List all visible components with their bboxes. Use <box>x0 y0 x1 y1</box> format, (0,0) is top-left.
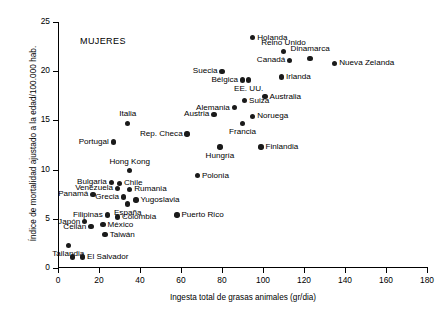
x-tick-label-80: 80 <box>207 275 237 285</box>
data-point <box>219 69 224 74</box>
data-point <box>211 112 216 117</box>
y-axis-label: Índice de mortalidad ajustado a la edad/… <box>29 14 38 274</box>
data-point <box>105 212 110 217</box>
data-point-label: Yugoslavia <box>140 196 179 204</box>
x-tick-160: 160 <box>386 268 387 273</box>
data-point <box>80 254 85 259</box>
data-point-label: Noruega <box>257 112 288 120</box>
x-tick-label-100: 100 <box>248 275 278 285</box>
y-tick-label-15: 15 <box>41 114 50 124</box>
data-point-label: El Salvador <box>87 253 128 261</box>
data-point <box>125 121 130 126</box>
data-point <box>332 61 337 66</box>
x-tick-180: 180 <box>427 268 428 273</box>
x-tick-label-140: 140 <box>330 275 360 285</box>
y-tick-label-10: 10 <box>41 164 50 174</box>
data-point <box>258 144 263 149</box>
data-point-label: Italia <box>119 110 136 118</box>
scatter-plot-figure: Índice de mortalidad ajustado a la edad/… <box>0 0 443 316</box>
data-point <box>111 139 116 144</box>
data-point <box>174 212 179 217</box>
x-tick-label-0: 0 <box>43 275 73 285</box>
x-tick-label-160: 160 <box>371 275 401 285</box>
x-tick-20: 20 <box>99 268 100 273</box>
data-point-label: Rumania <box>134 185 166 193</box>
x-tick-80: 80 <box>222 268 223 273</box>
x-tick-120: 120 <box>304 268 305 273</box>
data-point-label: Hong Kong <box>109 157 150 165</box>
data-point-label: Francia <box>229 128 256 136</box>
data-point <box>66 243 71 248</box>
data-point <box>121 194 126 199</box>
data-point-label: Canadá <box>257 56 285 64</box>
x-tick-40: 40 <box>140 268 141 273</box>
data-point <box>70 254 75 259</box>
data-point-label: Polonia <box>202 171 229 179</box>
x-tick-140: 140 <box>345 268 346 273</box>
data-point <box>115 186 120 191</box>
data-point <box>184 131 189 136</box>
data-point-label: Suiza <box>249 97 269 105</box>
data-point-label: Finlandia <box>265 143 298 151</box>
x-tick-label-20: 20 <box>84 275 114 285</box>
data-point <box>133 197 138 202</box>
data-point <box>250 35 255 40</box>
x-tick-100: 100 <box>263 268 264 273</box>
x-tick-60: 60 <box>181 268 182 273</box>
data-point-label: Australia <box>270 93 302 101</box>
y-tick-10: 10 <box>53 170 58 171</box>
y-tick-label-20: 20 <box>41 65 50 75</box>
x-tick-0: 0 <box>58 268 59 273</box>
data-point-label: Irlanda <box>286 73 311 81</box>
data-point-label: Rep. Checa <box>140 130 183 138</box>
x-tick-label-40: 40 <box>125 275 155 285</box>
y-tick-label-25: 25 <box>41 16 50 26</box>
data-point <box>240 121 245 126</box>
data-point <box>195 173 200 178</box>
y-tick-label-5: 5 <box>45 213 50 223</box>
y-tick-label-0: 0 <box>45 262 50 272</box>
data-point-label: México <box>108 221 134 229</box>
data-point <box>88 224 93 229</box>
data-point-label: Portugal <box>79 138 109 146</box>
x-tick-label-120: 120 <box>289 275 319 285</box>
data-point-label: Ceilán <box>63 223 86 231</box>
data-point-label: Taiwán <box>110 230 135 238</box>
data-point <box>287 58 292 63</box>
data-point <box>217 144 222 149</box>
data-point-label: Grecia <box>95 193 119 201</box>
data-point <box>307 56 312 61</box>
data-point <box>242 98 247 103</box>
x-tick-label-180: 180 <box>412 275 442 285</box>
data-point <box>100 222 105 227</box>
data-point-label: Puerto Rico <box>181 211 223 219</box>
data-point <box>240 77 245 82</box>
data-point-label: EE. UU. <box>234 85 263 93</box>
data-point-label: Dinamarca <box>291 45 330 53</box>
data-point <box>246 77 251 82</box>
plot-area: 0510152025 020406080100120140160180 Hola… <box>58 22 427 268</box>
data-point <box>125 201 130 206</box>
data-point <box>250 114 255 119</box>
y-tick-20: 20 <box>53 71 58 72</box>
data-point-label: Nueva Zelanda <box>339 59 394 67</box>
data-point <box>281 49 286 54</box>
x-axis-label: Ingesta total de grasas animales (gr/dia… <box>58 293 428 302</box>
y-tick-15: 15 <box>53 120 58 121</box>
data-point-label: Bélgica <box>211 76 238 84</box>
y-tick-25: 25 <box>53 22 58 23</box>
x-tick-label-60: 60 <box>166 275 196 285</box>
data-point <box>279 74 284 79</box>
data-point <box>232 105 237 110</box>
data-point-label: Panamá <box>58 190 88 198</box>
data-point <box>102 232 107 237</box>
data-point <box>127 168 132 173</box>
data-point-label: Austria <box>184 110 209 118</box>
data-point <box>127 187 132 192</box>
data-point-label: Hungría <box>206 152 235 160</box>
